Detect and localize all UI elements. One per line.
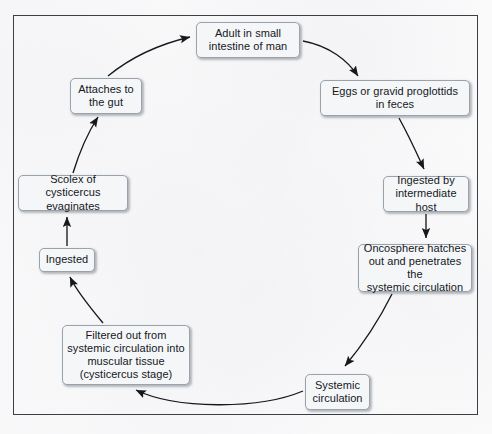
node-adult-in-small-intestine: Adult in small intestine of man bbox=[196, 22, 300, 58]
node-eggs-or-gravid-proglottids: Eggs or gravid proglottids in feces bbox=[320, 80, 470, 116]
node-attaches-to-the-gut: Attaches to the gut bbox=[70, 78, 142, 114]
node-ingested: Ingested bbox=[39, 248, 95, 272]
node-filtered-out-cysticercus-stage: Filtered out from systemic circulation i… bbox=[62, 325, 190, 385]
node-ingested-by-intermediate-host: Ingested by intermediate host bbox=[383, 176, 469, 212]
node-systemic-circulation: Systemic circulation bbox=[305, 374, 370, 410]
diagram-screenshot: Adult in small intestine of man Eggs or … bbox=[0, 0, 492, 434]
node-scolex-of-cysticercus-evaginates: Scolex of cysticercus evaginates bbox=[18, 175, 128, 211]
node-oncosphere-hatches-out: Oncosphere hatches out and penetrates th… bbox=[358, 244, 472, 292]
